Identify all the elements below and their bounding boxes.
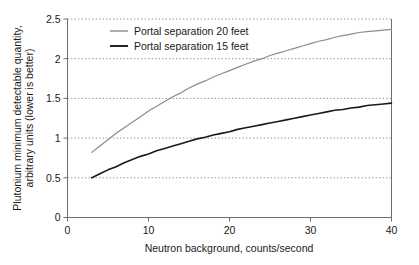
chart-figure: 00.511.522.5 010203040 Portal separation…: [0, 0, 419, 265]
line-chart: 00.511.522.5 010203040 Portal separation…: [0, 0, 419, 265]
legend-label-1: Portal separation 20 feet: [134, 25, 248, 37]
y-tick-label: 0.5: [46, 172, 61, 184]
y-tick-label: 1.5: [46, 92, 61, 104]
y-axis-title-line2: arbitrary units (lower is better): [23, 49, 35, 188]
x-axis-title: Neutron background, counts/second: [145, 242, 314, 254]
legend-label-2: Portal separation 15 feet: [134, 40, 248, 52]
y-tick-label: 0: [55, 211, 61, 223]
x-tick-label: 20: [224, 224, 236, 236]
y-tick-label: 2.5: [46, 13, 61, 25]
x-tick-label: 40: [386, 224, 398, 236]
y-tick-label: 2: [55, 53, 61, 65]
y-axis-title-line1: Plutonium minimum detectable quantity,: [11, 25, 23, 210]
x-tick-label: 0: [65, 224, 71, 236]
y-tick-label: 1: [55, 132, 61, 144]
x-tick-label: 30: [305, 224, 317, 236]
x-tick-label: 10: [143, 224, 155, 236]
